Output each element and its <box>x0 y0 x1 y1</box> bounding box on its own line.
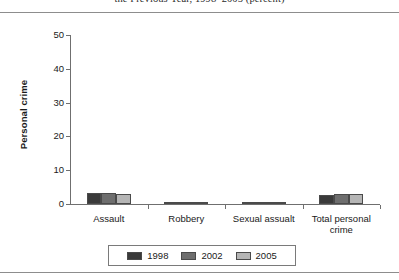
legend-swatch-2002 <box>181 252 196 260</box>
y-tick-mark <box>66 136 70 137</box>
y-tick-mark <box>66 103 70 104</box>
bar-2002-assault <box>101 193 116 204</box>
x-category-label: Robbery <box>148 213 226 224</box>
bar-2005-robbery <box>194 202 209 204</box>
legend-label-2002: 2002 <box>201 250 222 261</box>
legend-swatch-2005 <box>236 252 251 260</box>
bar-2005-sexual-assualt <box>271 202 286 204</box>
x-tick-mark <box>225 205 226 209</box>
y-tick-mark <box>66 35 70 36</box>
chart-title-strip: the Previous Year, 1998–2005 (percent) <box>0 0 399 11</box>
y-tick-label: 30 <box>53 97 64 108</box>
x-tick-mark <box>148 205 149 209</box>
plot-area: 01020304050 AssaultRobberySexual assualt… <box>70 35 380 204</box>
bar-2002-sexual-assualt <box>256 202 271 204</box>
y-tick-mark <box>66 69 70 70</box>
x-tick-mark <box>380 205 381 209</box>
chart-legend: 199820022005 <box>108 245 296 266</box>
legend-item-1998: 1998 <box>127 250 168 261</box>
bar-2002-robbery <box>179 202 194 204</box>
legend-swatch-1998 <box>127 252 142 260</box>
legend-label-1998: 1998 <box>147 250 168 261</box>
bar-1998-total-personal-crime <box>319 195 334 204</box>
chart-title: the Previous Year, 1998–2005 (percent) <box>0 0 399 4</box>
y-axis-title: Personal crime <box>18 70 29 160</box>
bar-1998-sexual-assualt <box>242 202 257 204</box>
bar-2005-total-personal-crime <box>349 194 364 204</box>
y-tick-label: 20 <box>53 130 64 141</box>
y-tick-label: 50 <box>53 29 64 40</box>
x-category-label: Assault <box>70 213 148 224</box>
y-tick-mark <box>66 204 70 205</box>
x-category-label: Total personal crime <box>303 213 381 235</box>
bar-2002-total-personal-crime <box>334 194 349 204</box>
y-tick-label: 40 <box>53 63 64 74</box>
bar-2005-assault <box>116 194 131 204</box>
legend-item-2002: 2002 <box>181 250 222 261</box>
bar-chart: Personal crime 01020304050 AssaultRobber… <box>0 13 399 271</box>
x-tick-mark <box>303 205 304 209</box>
legend-label-2005: 2005 <box>256 250 277 261</box>
y-tick-label: 0 <box>59 198 64 209</box>
y-tick-label: 10 <box>53 164 64 175</box>
y-tick-mark <box>66 170 70 171</box>
x-category-label: Sexual assualt <box>225 213 303 224</box>
page-rule-bottom <box>0 272 399 273</box>
y-axis-line <box>70 35 71 204</box>
bar-1998-robbery <box>164 202 179 204</box>
bar-1998-assault <box>87 193 102 204</box>
legend-item-2005: 2005 <box>236 250 277 261</box>
